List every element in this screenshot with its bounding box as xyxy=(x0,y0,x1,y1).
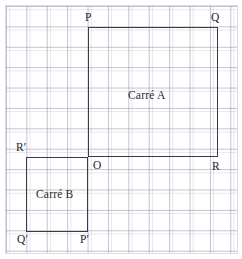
vertex-label-q: Q xyxy=(211,11,219,23)
vertex-label-p: P xyxy=(85,11,92,23)
vertex-label-r-prime: R′ xyxy=(16,141,26,153)
vertex-label-r: R xyxy=(212,160,220,172)
vertex-label-p-prime: P′ xyxy=(80,233,89,245)
square-b-caption: Carré B xyxy=(36,188,73,200)
vertex-label-q-prime: Q′ xyxy=(17,233,28,245)
vertex-label-o: O xyxy=(93,159,101,171)
geometry-figure: Carré A Carré B P Q O R R′ Q′ P′ xyxy=(0,0,242,259)
square-a-caption: Carré A xyxy=(128,89,165,101)
